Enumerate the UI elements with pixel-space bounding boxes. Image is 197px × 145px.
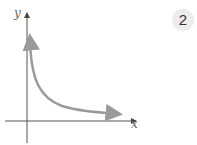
y-axis-label: y [14, 6, 21, 20]
x-axis-label: x [131, 117, 138, 131]
graph-svg [0, 0, 197, 145]
figure-number-badge: 2 [172, 9, 194, 31]
diagram [0, 0, 197, 145]
hyperbola-curve [30, 40, 118, 114]
